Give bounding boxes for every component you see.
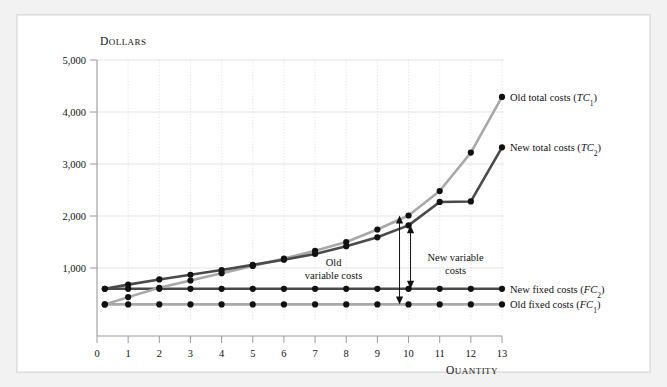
new-variable-costs-label-line1: New variable <box>427 252 484 263</box>
series-label: Old total costs (TC1) <box>510 92 597 108</box>
data-point <box>312 251 318 257</box>
x-tick-label: 8 <box>344 348 349 359</box>
data-point <box>437 301 443 307</box>
data-point <box>187 272 193 278</box>
data-point <box>281 286 287 292</box>
data-point <box>468 198 474 204</box>
x-tick-label: 12 <box>466 348 477 359</box>
y-axis-title: DOLLARS <box>100 35 146 47</box>
data-point <box>499 94 505 100</box>
x-tick-label: 7 <box>312 348 317 359</box>
data-point <box>499 144 505 150</box>
data-point <box>281 301 287 307</box>
data-point <box>250 262 256 268</box>
data-point <box>156 285 162 291</box>
data-point <box>437 188 443 194</box>
figure-frame: 1,0002,0003,0004,0005,000012345678910111… <box>0 0 667 387</box>
data-point <box>405 212 411 218</box>
x-tick-label: 5 <box>250 348 255 359</box>
series-line <box>105 147 502 288</box>
data-point <box>437 286 443 292</box>
y-tick-label: 5,000 <box>62 55 86 66</box>
data-point <box>343 286 349 292</box>
data-point <box>102 301 108 307</box>
data-point <box>219 301 225 307</box>
x-tick-label: 2 <box>157 348 162 359</box>
data-point <box>499 301 505 307</box>
series-label: New fixed costs (FC2) <box>510 284 605 300</box>
series-label: New total costs (TC2) <box>510 142 601 158</box>
x-axis-title: QUANTITY <box>446 364 498 374</box>
data-point <box>405 301 411 307</box>
x-tick-label: 9 <box>375 348 380 359</box>
x-tick-label: 3 <box>188 348 193 359</box>
data-point <box>156 276 162 282</box>
chart-panel: 1,0002,0003,0004,0005,000012345678910111… <box>16 14 651 373</box>
data-point <box>250 301 256 307</box>
data-point <box>156 301 162 307</box>
x-tick-label: 13 <box>497 348 508 359</box>
data-point <box>250 286 256 292</box>
x-tick-label: 10 <box>403 348 414 359</box>
data-point <box>499 286 505 292</box>
x-tick-label: 4 <box>219 348 225 359</box>
data-point <box>343 301 349 307</box>
data-point <box>125 301 131 307</box>
y-tick-label: 4,000 <box>62 107 86 118</box>
data-point <box>125 294 131 300</box>
data-point <box>312 286 318 292</box>
data-point <box>125 282 131 288</box>
data-point <box>468 149 474 155</box>
data-point <box>468 301 474 307</box>
x-tick-label: 1 <box>126 348 131 359</box>
data-point <box>187 301 193 307</box>
y-tick-label: 3,000 <box>62 159 86 170</box>
series-label: Old fixed costs (FC1) <box>510 299 601 315</box>
old-variable-costs-label-line1: Old <box>326 257 343 268</box>
new-variable-costs-label-line2: costs <box>445 265 466 276</box>
data-point <box>281 257 287 263</box>
x-tick-label: 6 <box>281 348 286 359</box>
data-point <box>468 286 474 292</box>
x-tick-label: 11 <box>435 348 445 359</box>
data-point <box>374 234 380 240</box>
data-point <box>374 226 380 232</box>
data-point <box>102 286 108 292</box>
y-tick-label: 1,000 <box>62 263 86 274</box>
data-point <box>187 286 193 292</box>
data-point <box>219 286 225 292</box>
old-variable-costs-label-line2: variable costs <box>305 270 362 281</box>
data-point <box>437 199 443 205</box>
data-point <box>374 286 380 292</box>
data-point <box>312 301 318 307</box>
data-point <box>374 301 380 307</box>
data-point <box>219 267 225 273</box>
plot-area: 1,0002,0003,0004,0005,000012345678910111… <box>17 15 652 374</box>
data-point <box>343 243 349 249</box>
x-tick-label: 0 <box>94 348 99 359</box>
cost-curves-chart: 1,0002,0003,0004,0005,000012345678910111… <box>17 15 652 374</box>
data-point <box>187 277 193 283</box>
y-tick-label: 2,000 <box>62 211 86 222</box>
